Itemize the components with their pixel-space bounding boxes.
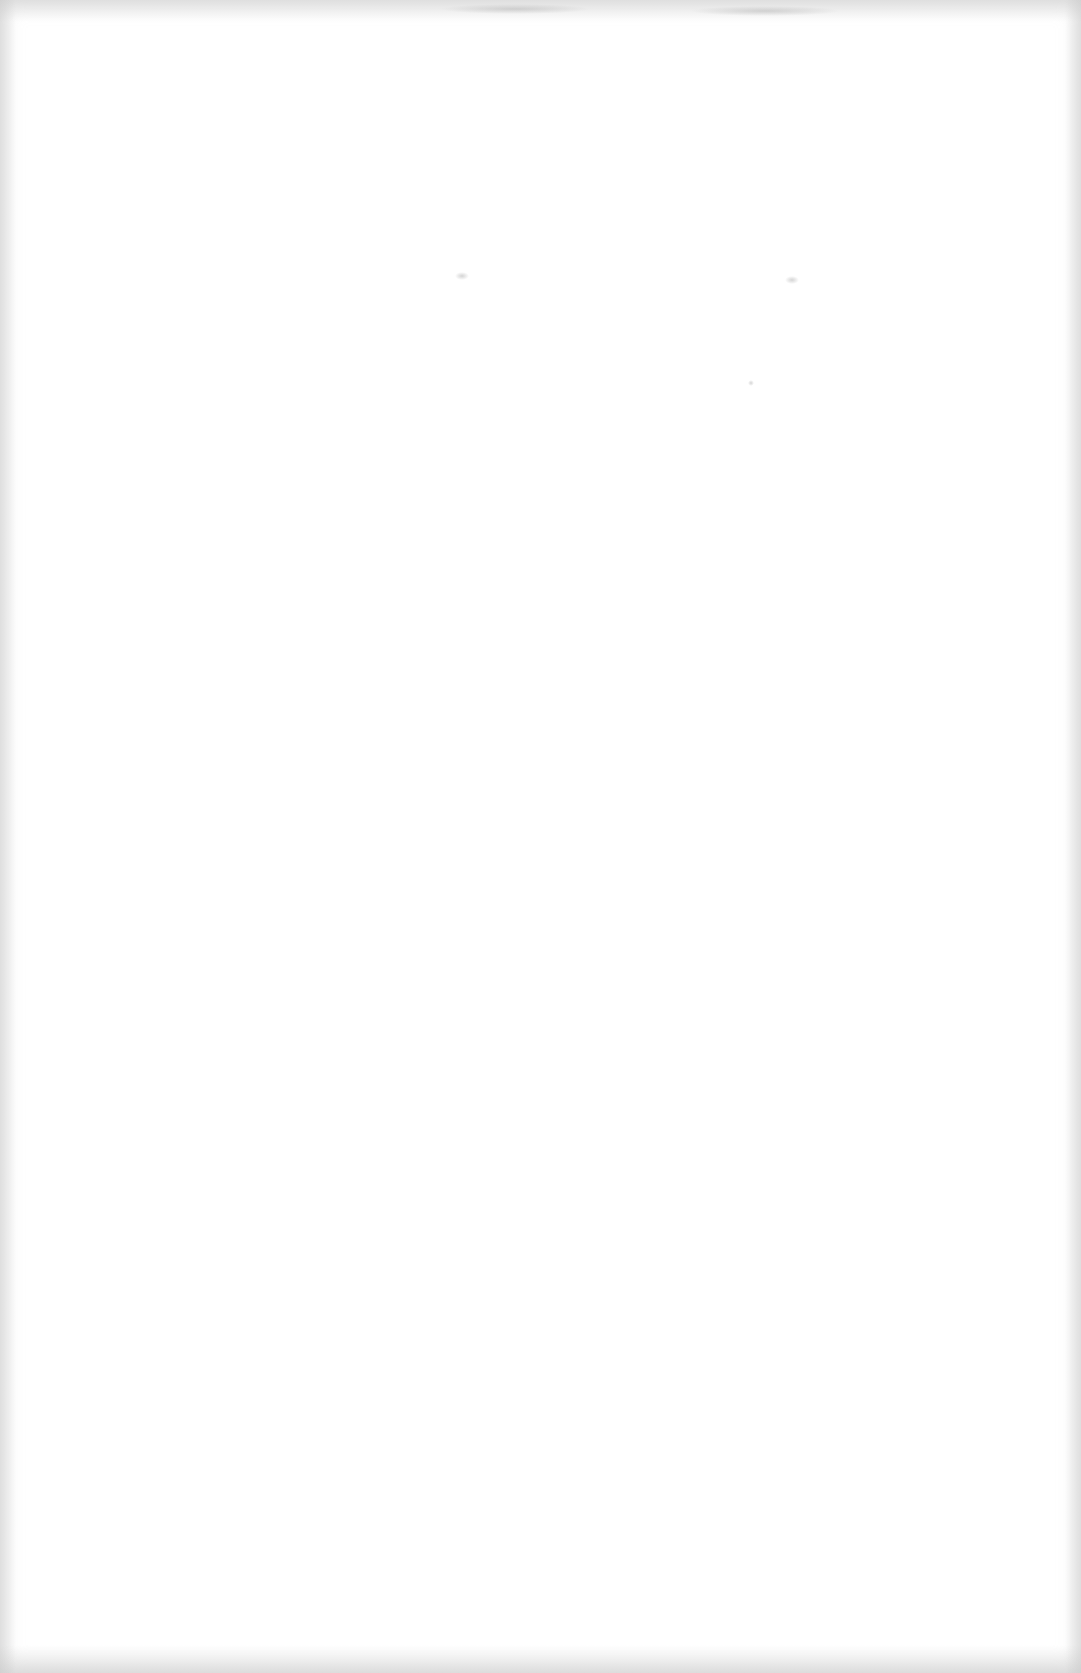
- bleed-through-mark: [440, 4, 590, 14]
- scan-edge-bottom: [0, 1645, 1081, 1673]
- scan-speck: [455, 272, 469, 280]
- scan-edge-right: [1065, 0, 1081, 1673]
- blank-page: [0, 0, 1081, 1673]
- scan-speck: [785, 276, 799, 284]
- bleed-through-mark: [690, 6, 840, 16]
- scan-speck: [748, 380, 754, 386]
- scan-edge-left: [0, 0, 16, 1673]
